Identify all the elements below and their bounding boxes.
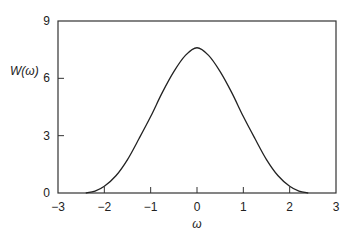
chart-canvas: −3−2−10123 0369 W(ω) ω: [0, 0, 355, 240]
data-curve: [86, 48, 308, 193]
y-axis-label: W(ω): [10, 64, 39, 78]
y-axis-ticks: 0369: [43, 14, 64, 200]
x-tick-label: −2: [97, 200, 111, 214]
x-tick-label: 2: [286, 200, 293, 214]
plot-frame: [58, 21, 336, 193]
x-axis-label: ω: [192, 217, 201, 231]
x-tick-label: 0: [194, 200, 201, 214]
y-tick-label: 6: [43, 71, 50, 85]
y-tick-label: 0: [43, 186, 50, 200]
x-tick-label: −3: [51, 200, 65, 214]
plot-border: [58, 21, 336, 193]
x-tick-label: −1: [144, 200, 158, 214]
y-tick-label: 9: [43, 14, 50, 28]
y-tick-label: 3: [43, 129, 50, 143]
x-tick-label: 1: [240, 200, 247, 214]
x-tick-label: 3: [333, 200, 340, 214]
